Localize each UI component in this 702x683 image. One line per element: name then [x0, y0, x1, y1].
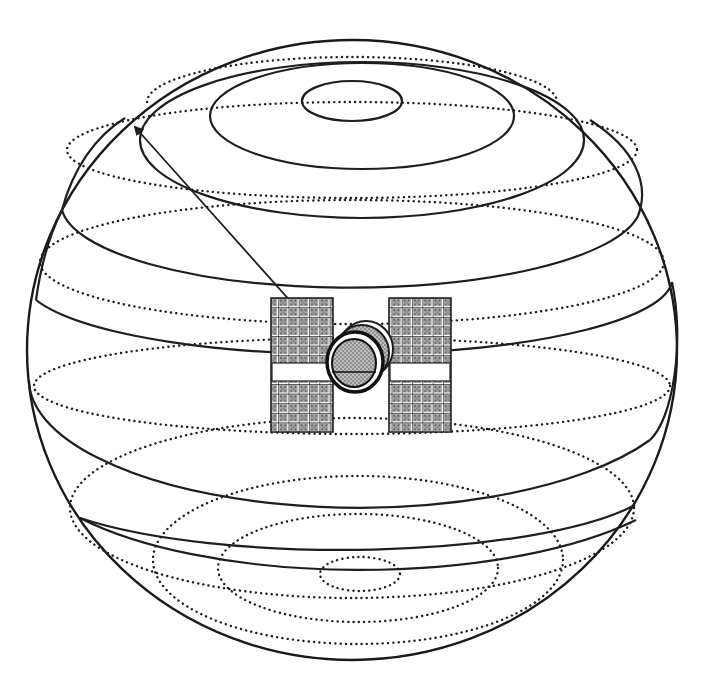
panel-gap-right [390, 363, 450, 381]
solid-ring-8 [80, 518, 636, 570]
solid-ring-6 [29, 380, 650, 508]
solid-ring-4-left [62, 118, 125, 210]
near-side-rings [29, 62, 677, 570]
solid-ring-7 [80, 505, 635, 550]
panel-gap-left [272, 363, 332, 381]
solid-ring-polar [302, 81, 402, 121]
satellite-bus-face [332, 339, 376, 387]
dotted-ring-7 [218, 514, 498, 622]
sphere-satellite-diagram [0, 0, 702, 683]
solid-ring-2 [210, 63, 514, 169]
satellite [271, 298, 451, 432]
dotted-ring-2 [67, 102, 637, 198]
dotted-ring-8 [320, 557, 400, 591]
solid-ring-3 [140, 62, 584, 218]
solid-ring-4 [62, 120, 642, 288]
solid-ring-5-left [36, 210, 62, 300]
